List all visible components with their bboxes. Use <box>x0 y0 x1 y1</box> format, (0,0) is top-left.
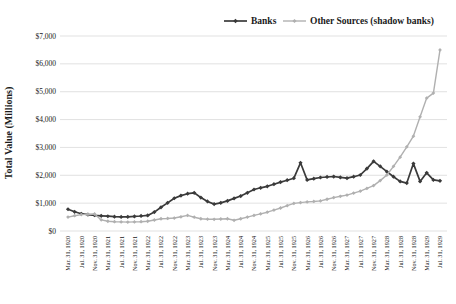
data-point-marker <box>418 115 422 119</box>
data-point-marker <box>192 215 196 219</box>
brokers-loans-line-chart: $0$1,000$2,000$3,000$4,000$5,000$6,000$7… <box>0 0 456 304</box>
data-point-marker <box>126 220 130 224</box>
data-point-marker <box>232 218 236 222</box>
data-point-marker <box>259 212 263 216</box>
y-axis-tick-label: $4,000 <box>35 115 56 124</box>
x-axis-label: Mar. 31, 1928 <box>383 236 390 271</box>
data-point-marker <box>272 208 276 212</box>
banks-markers <box>66 159 442 219</box>
y-axis-tick-label: $0 <box>49 227 57 236</box>
x-axis-label: Mar. 31, 1923 <box>184 236 191 271</box>
data-point-marker <box>219 217 223 221</box>
data-point-marker <box>73 210 77 214</box>
legend-banks-label: Banks <box>251 16 277 26</box>
data-point-marker <box>146 219 150 223</box>
x-axis-label: Nov. 31, 1920 <box>91 236 98 271</box>
data-point-marker <box>106 219 110 223</box>
data-point-marker <box>73 214 77 218</box>
y-gridlines <box>60 36 447 231</box>
data-point-marker <box>186 214 190 218</box>
y-axis-tick-labels: $0$1,000$2,000$3,000$4,000$5,000$6,000$7… <box>35 32 56 236</box>
shadow-banks-markers <box>66 48 442 224</box>
x-axis-label: Jul. 31, 1924 <box>237 236 244 268</box>
y-axis-tick-label: $2,000 <box>35 171 56 180</box>
y-axis-tick-label: $5,000 <box>35 87 56 96</box>
data-point-marker <box>252 214 256 218</box>
x-axis-label: Nov. 31, 1925 <box>290 236 297 271</box>
legend-banks-marker-icon <box>233 19 238 24</box>
data-point-marker <box>318 175 322 179</box>
x-axis-label: Jul. 31, 1922 <box>157 236 164 268</box>
shadow-banks-series <box>66 48 442 224</box>
data-point-marker <box>405 181 409 185</box>
x-axis-label: Nov. 31, 1926 <box>330 236 337 271</box>
legend: BanksOther Sources (shadow banks) <box>224 16 434 27</box>
data-point-marker <box>66 215 70 219</box>
data-point-marker <box>185 192 189 196</box>
data-point-marker <box>312 177 316 181</box>
data-point-marker <box>338 175 342 179</box>
data-point-marker <box>226 217 230 221</box>
data-point-marker <box>259 186 263 190</box>
data-point-marker <box>132 214 136 218</box>
data-point-marker <box>438 179 442 183</box>
data-point-marker <box>139 214 143 218</box>
data-point-marker <box>278 180 282 184</box>
data-point-marker <box>325 197 329 201</box>
x-axis-label: Mar. 31, 1929 <box>423 236 430 271</box>
y-axis-title: Total Value (Millions) <box>3 87 15 179</box>
x-axis-label: Mar. 31, 1920 <box>64 236 71 271</box>
data-point-marker <box>113 220 117 224</box>
data-point-marker <box>126 215 130 219</box>
y-axis-tick-label: $1,000 <box>35 199 56 208</box>
x-axis-label: Mar. 31, 1921 <box>104 236 111 271</box>
x-axis-label: Jul. 31, 1921 <box>118 236 125 268</box>
y-axis-tick-label: $6,000 <box>35 59 56 68</box>
x-axis-label: Jul. 31, 1926 <box>317 236 324 268</box>
x-axis-label: Nov. 31, 1922 <box>171 236 178 271</box>
data-point-marker <box>179 215 183 219</box>
data-point-marker <box>272 182 276 186</box>
data-point-marker <box>292 202 296 206</box>
data-point-marker <box>438 48 442 52</box>
x-axis-labels: Mar. 31, 1920Jul. 31, 1920Nov. 31, 1920M… <box>64 236 443 271</box>
data-point-marker <box>166 217 170 221</box>
x-axis-label: Jul. 31, 1928 <box>397 236 404 268</box>
x-axis-label: Nov. 31, 1928 <box>410 236 417 271</box>
x-axis-label: Mar. 31, 1925 <box>264 236 271 271</box>
x-axis-label: Mar. 31, 1922 <box>144 236 151 271</box>
data-point-marker <box>358 189 362 193</box>
data-point-marker <box>319 199 323 203</box>
data-point-marker <box>265 184 269 188</box>
x-axis-label: Nov. 31, 1923 <box>211 236 218 271</box>
data-point-marker <box>99 214 103 218</box>
y-axis-tick-label: $3,000 <box>35 143 56 152</box>
data-point-marker <box>159 217 163 221</box>
legend-shadow-label: Other Sources (shadow banks) <box>310 16 434 27</box>
data-point-marker <box>112 215 116 219</box>
data-point-marker <box>119 215 123 219</box>
data-point-marker <box>206 217 210 221</box>
x-axis-label: Mar. 31, 1924 <box>224 236 231 271</box>
x-axis-label: Jul. 31, 1929 <box>436 236 443 268</box>
data-point-marker <box>299 201 303 205</box>
data-point-marker <box>139 220 143 224</box>
data-point-marker <box>119 220 123 224</box>
data-point-marker <box>106 214 110 218</box>
data-point-marker <box>411 161 415 165</box>
x-axis-label: Jul. 31, 1920 <box>78 236 85 268</box>
data-point-marker <box>133 220 137 224</box>
data-point-marker <box>332 196 336 200</box>
x-axis-label: Jul. 31, 1925 <box>277 236 284 268</box>
legend-shadow-marker-icon <box>292 19 296 23</box>
y-axis-tick-label: $7,000 <box>35 32 56 41</box>
chart-container: $0$1,000$2,000$3,000$4,000$5,000$6,000$7… <box>0 0 456 304</box>
data-point-marker <box>239 217 243 221</box>
data-point-marker <box>86 212 90 216</box>
data-point-marker <box>212 217 216 221</box>
x-axis-label: Jul. 31, 1923 <box>197 236 204 268</box>
banks-series <box>66 159 442 219</box>
data-point-marker <box>345 193 349 197</box>
shadow-banks-line <box>68 50 440 222</box>
x-axis-label: Mar. 31, 1927 <box>343 236 350 271</box>
